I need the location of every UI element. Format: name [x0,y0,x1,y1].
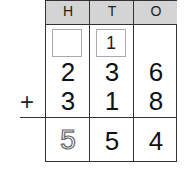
addend2-hundreds: 3 [46,86,90,117]
addend2-tens: 1 [90,86,134,117]
addend2-ones: 8 [134,86,178,117]
header-tens: T [90,3,134,19]
header-hundreds: H [46,3,90,19]
carry-hundreds-value [52,29,82,57]
header-ones: O [134,3,178,19]
sum-ones: 4 [134,126,178,157]
addend1-tens: 3 [90,57,134,88]
sum-tens: 5 [90,126,134,157]
carry-tens-value: 1 [96,29,126,57]
addend1-hundreds: 2 [46,57,90,88]
sum-line [20,117,177,118]
place-value-table: H T O 1 2 3 6 3 1 8 5 5 4 [45,0,177,162]
sum-hundreds-trace[interactable]: 5 [46,124,90,156]
plus-sign: + [20,88,34,116]
addend1-ones: 6 [134,57,178,88]
